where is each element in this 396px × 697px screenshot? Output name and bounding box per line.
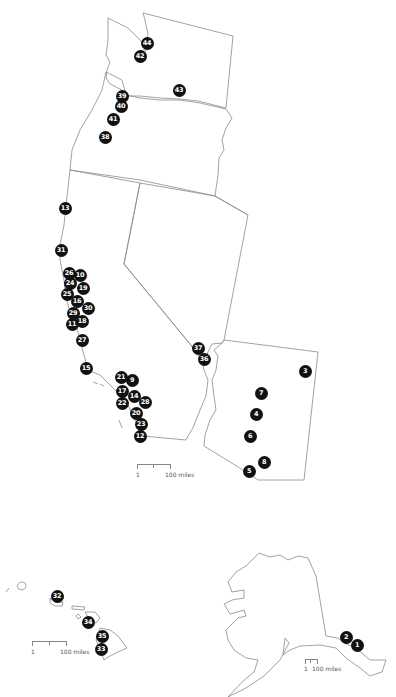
site-marker[interactable]: 12 (134, 430, 147, 443)
site-marker[interactable]: 40 (115, 100, 128, 113)
site-marker[interactable]: 33 (95, 643, 108, 656)
site-marker[interactable]: 18 (76, 315, 89, 328)
site-marker[interactable]: 19 (77, 282, 90, 295)
scale-end-label: 100 miles (60, 648, 89, 655)
site-marker[interactable]: 32 (51, 590, 64, 603)
site-marker[interactable]: 31 (55, 244, 68, 257)
scale-end-label: 100 miles (312, 665, 341, 672)
site-marker[interactable]: 36 (198, 353, 211, 366)
site-marker[interactable]: 41 (107, 113, 120, 126)
idaho-edge (215, 196, 248, 215)
nevada-outline (124, 183, 248, 360)
site-marker[interactable]: 35 (96, 630, 109, 643)
site-marker[interactable]: 15 (80, 362, 93, 375)
hawaii-island-kauai (17, 582, 26, 590)
site-marker[interactable]: 6 (244, 430, 257, 443)
site-marker[interactable]: 4 (250, 408, 263, 421)
site-marker[interactable]: 9 (126, 374, 139, 387)
alaska-outline (224, 553, 386, 697)
hawaii-island-lanai (76, 614, 81, 619)
scale-end-label: 100 miles (165, 471, 194, 478)
site-marker[interactable]: 38 (99, 131, 112, 144)
oregon-outline (70, 72, 232, 196)
scale-start-label: 1 (304, 665, 308, 672)
site-marker[interactable]: 44 (141, 37, 154, 50)
site-marker[interactable]: 27 (76, 334, 89, 347)
site-marker[interactable]: 2 (340, 631, 353, 644)
scale-start-label: 1 (31, 648, 35, 655)
hawaii-island-niihau (6, 588, 9, 592)
site-marker[interactable]: 42 (134, 50, 147, 63)
site-marker[interactable]: 13 (59, 202, 72, 215)
scale-start-label: 1 (136, 471, 140, 478)
site-marker[interactable]: 43 (173, 84, 186, 97)
site-marker[interactable]: 3 (299, 365, 312, 378)
site-marker[interactable]: 8 (258, 456, 271, 469)
site-marker[interactable]: 30 (82, 302, 95, 315)
site-marker[interactable]: 5 (243, 465, 256, 478)
site-marker[interactable]: 34 (82, 616, 95, 629)
site-marker[interactable]: 23 (135, 418, 148, 431)
site-marker[interactable]: 7 (255, 387, 268, 400)
hawaii-island-molokai (72, 606, 85, 610)
site-marker[interactable]: 1 (351, 639, 364, 652)
site-marker[interactable]: 28 (139, 396, 152, 409)
site-marker[interactable]: 17 (116, 385, 129, 398)
site-marker[interactable]: 22 (116, 397, 129, 410)
